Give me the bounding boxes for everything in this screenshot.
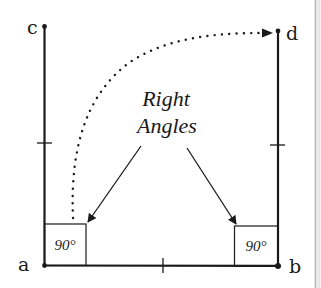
point-label-d: d bbox=[286, 22, 298, 44]
diagram-svg: 90° 90° c d a b Right Angles bbox=[0, 0, 321, 288]
point-label-c: c bbox=[27, 16, 38, 38]
pointer-arrow-left bbox=[88, 146, 141, 222]
rotation-arrowhead-icon bbox=[262, 29, 273, 38]
point-d-dot bbox=[276, 29, 281, 34]
caption-line-2: Angles bbox=[135, 113, 197, 138]
page-edge bbox=[314, 0, 321, 288]
point-c-dot bbox=[42, 24, 47, 29]
caption-line-1: Right bbox=[141, 86, 191, 111]
angle-label-right: 90° bbox=[246, 238, 267, 254]
point-label-a: a bbox=[18, 253, 29, 275]
pointer-arrow-right bbox=[187, 148, 236, 224]
angle-label-left: 90° bbox=[55, 237, 76, 253]
diagram-canvas: 90° 90° c d a b Right Angles bbox=[0, 0, 321, 288]
point-label-b: b bbox=[289, 255, 301, 277]
